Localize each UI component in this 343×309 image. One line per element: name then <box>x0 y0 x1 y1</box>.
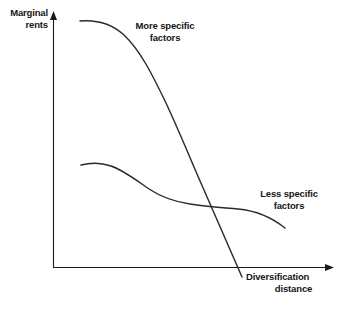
figure-root: Marginal rents Diversification distance … <box>0 0 343 309</box>
chart-canvas <box>0 0 343 309</box>
x-axis-title-line-2: distance <box>244 283 343 295</box>
x-axis-arrowhead-icon <box>325 264 334 271</box>
annotation-less-specific-line-2: factors <box>253 200 325 212</box>
annotation-more-specific-line-2: factors <box>130 32 200 44</box>
annotation-less-specific-line-1: Less specific <box>253 188 325 200</box>
y-axis-title-line-1: Marginal <box>0 7 48 19</box>
annotation-more-specific-line-1: More specific <box>130 20 200 32</box>
y-axis-group <box>50 11 57 268</box>
x-axis-title-line-1: Diversification <box>244 271 343 283</box>
annotation-more-specific-factors: More specific factors <box>130 20 200 43</box>
x-axis-group <box>54 264 335 271</box>
y-axis-title-line-2: rents <box>0 19 48 31</box>
curve-more-specific-factors <box>80 21 242 277</box>
x-axis-title: Diversification distance <box>244 271 343 294</box>
annotation-less-specific-factors: Less specific factors <box>253 188 325 211</box>
y-axis-title: Marginal rents <box>0 7 48 30</box>
y-axis-arrowhead-icon <box>50 11 57 20</box>
